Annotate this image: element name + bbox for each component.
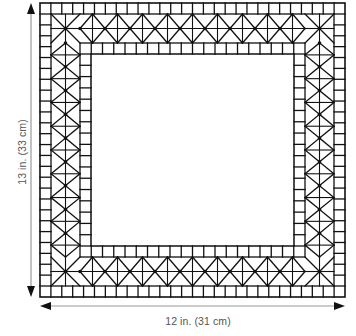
mosaic-frame (40, 3, 345, 297)
width-dimension-label: 12 in. (31 cm) (148, 315, 248, 327)
height-dimension-label: 13 in. (33 cm) (16, 102, 28, 202)
mosaic-frame-diagram (0, 0, 356, 336)
